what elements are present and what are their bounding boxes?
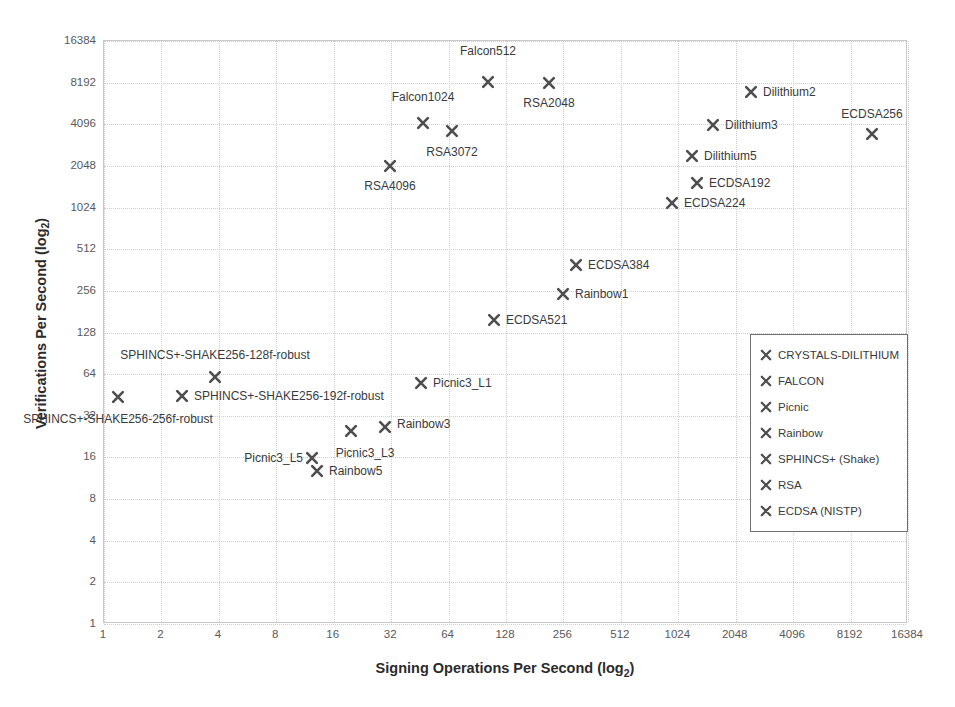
y-tick-label: 4 <box>90 534 96 546</box>
data-point-marker[interactable] <box>555 286 571 302</box>
data-point-marker[interactable] <box>541 75 557 91</box>
y-tick-label: 512 <box>77 242 96 254</box>
gridline-horizontal <box>104 41 906 42</box>
data-point-marker[interactable] <box>415 115 431 131</box>
data-point-label: RSA2048 <box>523 96 574 110</box>
gridline-horizontal <box>104 83 906 84</box>
data-point-label: ECDSA192 <box>709 176 770 190</box>
x-tick-label: 16 <box>326 628 339 640</box>
y-tick-label: 64 <box>83 367 96 379</box>
x-axis-title-tail: ) <box>630 660 635 676</box>
x-axis-title: Signing Operations Per Second (log2) <box>103 660 907 679</box>
x-tick-label: 1 <box>100 628 106 640</box>
y-tick-label: 4096 <box>70 117 96 129</box>
data-point-label: SPHINCS+-SHAKE256-192f-robust <box>194 389 384 403</box>
x-axis-title-main: Signing Operations Per Second (log <box>376 660 624 676</box>
gridline-horizontal <box>104 249 906 250</box>
legend-item[interactable]: ECDSA (NISTP) <box>759 498 907 524</box>
y-tick-label: 16 <box>83 450 96 462</box>
x-tick-label: 32 <box>384 628 397 640</box>
data-point-marker[interactable] <box>486 312 502 328</box>
x-tick-label: 4096 <box>779 628 805 640</box>
x-tick-label: 4 <box>215 628 221 640</box>
x-tick-label: 256 <box>553 628 572 640</box>
gridline-vertical <box>793 41 794 622</box>
legend-item-label: CRYSTALS-DILITHIUM <box>778 349 899 361</box>
x-marker-icon <box>759 452 773 466</box>
gridline-vertical <box>563 41 564 622</box>
data-point-marker[interactable] <box>444 123 460 139</box>
plot-area <box>103 40 907 623</box>
legend-item[interactable]: FALCON <box>759 368 907 394</box>
data-point-label: Picnic3_L5 <box>244 451 303 465</box>
y-axis-title: Verifications Per Second (log2) <box>33 113 52 533</box>
gridline-horizontal <box>104 291 906 292</box>
data-point-marker[interactable] <box>480 74 496 90</box>
legend-item[interactable]: CRYSTALS-DILITHIUM <box>759 342 907 368</box>
data-point-label: SPHINCS+-SHAKE256-256f-robust <box>23 412 213 426</box>
y-tick-label: 8192 <box>70 76 96 88</box>
data-point-label: Rainbow1 <box>575 287 628 301</box>
data-point-marker[interactable] <box>864 126 880 142</box>
x-tick-label: 128 <box>495 628 514 640</box>
x-tick-label: 8192 <box>837 628 863 640</box>
x-marker-icon <box>759 348 773 362</box>
y-tick-label: 2 <box>90 575 96 587</box>
data-point-marker[interactable] <box>207 369 223 385</box>
x-tick-label: 1024 <box>664 628 690 640</box>
gridline-horizontal <box>104 124 906 125</box>
data-point-marker[interactable] <box>174 388 190 404</box>
gridline-vertical <box>621 41 622 622</box>
y-axis-title-tail: ) <box>33 218 49 223</box>
x-marker-icon <box>759 426 773 440</box>
gridline-vertical <box>219 41 220 622</box>
data-point-marker[interactable] <box>110 389 126 405</box>
gridline-vertical <box>851 41 852 622</box>
data-point-marker[interactable] <box>309 463 325 479</box>
data-point-marker[interactable] <box>705 117 721 133</box>
data-point-label: Picnic3_L3 <box>336 446 395 460</box>
gridline-vertical <box>161 41 162 622</box>
gridline-vertical <box>104 41 105 622</box>
data-point-label: Falcon512 <box>460 44 516 58</box>
data-point-label: Dilithium3 <box>725 118 778 132</box>
y-tick-label: 2048 <box>70 159 96 171</box>
data-point-label: ECDSA521 <box>506 313 567 327</box>
x-tick-label: 16384 <box>891 628 923 640</box>
legend: CRYSTALS-DILITHIUMFALCONPicnicRainbowSPH… <box>750 334 908 532</box>
data-point-marker[interactable] <box>689 175 705 191</box>
data-point-label: SPHINCS+-SHAKE256-128f-robust <box>120 348 310 362</box>
gridline-horizontal <box>104 541 906 542</box>
data-point-label: Rainbow5 <box>329 464 382 478</box>
legend-item[interactable]: Rainbow <box>759 420 907 446</box>
y-axis-title-sub: 2 <box>40 223 51 229</box>
gridline-horizontal <box>104 166 906 167</box>
x-marker-icon <box>759 504 773 518</box>
scatter-chart: 1248163264128256512102420484096819216384… <box>0 0 955 707</box>
gridline-horizontal <box>104 208 906 209</box>
gridline-horizontal <box>104 624 906 625</box>
legend-item-label: FALCON <box>778 375 824 387</box>
data-point-marker[interactable] <box>343 423 359 439</box>
data-point-marker[interactable] <box>684 148 700 164</box>
y-tick-label: 8 <box>90 492 96 504</box>
legend-item[interactable]: Picnic <box>759 394 907 420</box>
data-point-label: ECDSA256 <box>841 107 902 121</box>
legend-item-label: Picnic <box>778 401 809 413</box>
gridline-horizontal <box>104 582 906 583</box>
legend-item[interactable]: RSA <box>759 472 907 498</box>
data-point-label: Dilithium2 <box>763 85 816 99</box>
data-point-marker[interactable] <box>743 84 759 100</box>
data-point-marker[interactable] <box>382 158 398 174</box>
gridline-vertical <box>276 41 277 622</box>
data-point-marker[interactable] <box>568 257 584 273</box>
legend-item-label: RSA <box>778 479 802 491</box>
gridline-vertical <box>334 41 335 622</box>
gridline-vertical <box>678 41 679 622</box>
x-tick-label: 512 <box>610 628 629 640</box>
data-point-marker[interactable] <box>413 375 429 391</box>
data-point-marker[interactable] <box>664 195 680 211</box>
data-point-marker[interactable] <box>377 419 393 435</box>
x-marker-icon <box>759 400 773 414</box>
legend-item[interactable]: SPHINCS+ (Shake) <box>759 446 907 472</box>
